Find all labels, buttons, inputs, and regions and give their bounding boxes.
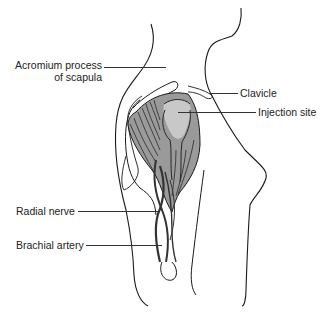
arm-inner-outline (191, 170, 204, 295)
leader-brachial-artery (86, 245, 162, 246)
label-injection-site: Injection site (258, 106, 316, 118)
leader-injection-site (178, 112, 256, 113)
leader-clavicle (210, 93, 238, 94)
deltoid-anatomy-diagram: Acromium process of scapula Clavicle Inj… (0, 0, 327, 316)
anatomy-illustration (0, 0, 327, 316)
label-brachial-artery: Brachial artery (16, 239, 84, 251)
label-acromium-line1: Acromium process (10, 59, 102, 71)
label-radial-nerve: Radial nerve (16, 205, 75, 217)
leader-acromium (104, 67, 166, 68)
elbow-outline (161, 262, 177, 280)
leader-radial-nerve (78, 211, 160, 212)
label-clavicle: Clavicle (240, 87, 277, 99)
label-acromium-line2: of scapula (10, 71, 102, 83)
chest-outline (205, 8, 266, 306)
